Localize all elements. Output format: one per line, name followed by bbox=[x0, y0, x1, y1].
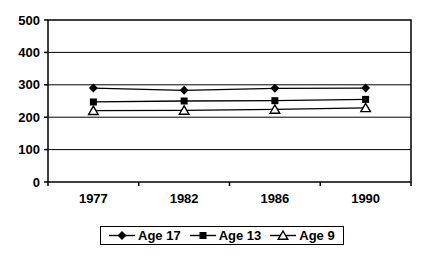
data-point-age-13 bbox=[90, 98, 97, 105]
data-point-age-13 bbox=[271, 97, 278, 104]
legend-box: Age 17 Age 13 Age 9 bbox=[100, 226, 344, 245]
series-line-age-9 bbox=[93, 108, 365, 111]
data-point-age-13 bbox=[362, 96, 369, 103]
chart-canvas: 01002003004005001977198219861990 bbox=[0, 0, 426, 259]
y-axis-label: 400 bbox=[18, 45, 40, 60]
legend-item-age-9: Age 9 bbox=[270, 229, 334, 242]
legend-label-age-17: Age 17 bbox=[138, 229, 181, 242]
data-point-age-13 bbox=[181, 98, 188, 105]
y-axis-label: 300 bbox=[18, 77, 40, 92]
series-line-age-17 bbox=[93, 88, 365, 90]
legend-item-age-17: Age 17 bbox=[109, 229, 181, 242]
diamond-marker-icon bbox=[109, 230, 135, 241]
y-axis-label: 200 bbox=[18, 110, 40, 125]
y-axis-label: 100 bbox=[18, 142, 40, 157]
legend-item-age-13: Age 13 bbox=[190, 229, 262, 242]
x-axis-label: 1986 bbox=[260, 191, 289, 206]
legend-label-age-13: Age 13 bbox=[219, 229, 262, 242]
triangle-marker-icon bbox=[270, 230, 296, 241]
x-axis-label: 1982 bbox=[170, 191, 199, 206]
series-line-age-13 bbox=[93, 99, 365, 102]
y-axis-label: 0 bbox=[33, 175, 40, 190]
data-point-age-17 bbox=[180, 86, 189, 95]
chart: 01002003004005001977198219861990 Age 17 … bbox=[0, 0, 426, 259]
x-axis-label: 1990 bbox=[351, 191, 380, 206]
legend-label-age-9: Age 9 bbox=[299, 229, 334, 242]
square-marker-icon bbox=[190, 230, 216, 241]
y-axis-label: 500 bbox=[18, 13, 40, 28]
x-axis-label: 1977 bbox=[79, 191, 108, 206]
